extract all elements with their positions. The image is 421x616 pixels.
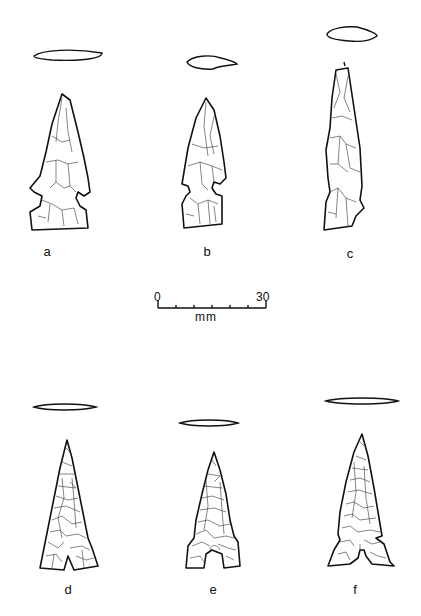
cross-section-c [325,24,381,44]
projectile-point-e [182,450,246,570]
specimen-label-d: d [58,582,78,597]
cross-section-a [32,48,104,64]
projectile-point-c [322,68,372,238]
cross-section-b [185,54,239,72]
cross-section-f [324,396,400,406]
cross-section-d [32,402,98,412]
projectile-point-a [28,92,92,232]
specimen-label-e: e [203,582,223,597]
projectile-point-f [324,432,398,574]
specimen-label-c: c [340,246,360,261]
scale-bar: 0 30 mm [150,290,310,330]
specimen-label-f: f [345,582,365,597]
projectile-point-b [178,96,234,232]
scale-unit-label: mm [195,310,217,324]
specimen-label-b: b [197,244,217,259]
projectile-point-d [36,438,100,572]
specimen-label-a: a [37,244,57,259]
cross-section-e [178,418,240,428]
scale-ruler [150,296,310,320]
